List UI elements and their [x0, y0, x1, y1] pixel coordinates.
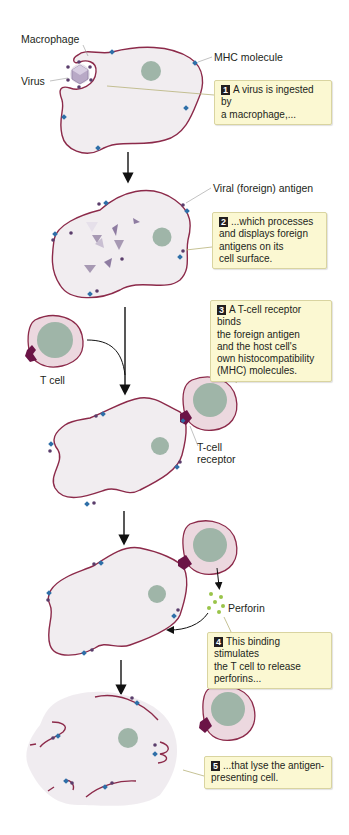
nucleus: [153, 228, 172, 247]
perforin-label: Perforin: [228, 602, 265, 614]
t-cell-receptor-label: T-cell receptor: [197, 441, 236, 465]
t-cell-receptor-label-line2: receptor: [197, 453, 236, 465]
step-text: This binding stimulates the T cell to re…: [214, 636, 301, 684]
perforin-molecules: [207, 592, 225, 614]
virus-label: Virus: [21, 75, 45, 87]
step-3-callout: 3A T-cell receptor binds the foreign ant…: [210, 300, 332, 382]
stage-2-antigen-presenting: [51, 188, 212, 298]
t-cell-label: T cell: [40, 374, 65, 386]
macrophage-label: Macrophage: [21, 33, 79, 45]
step-1-callout: 1A virus is ingested by a macrophage,...: [214, 80, 332, 125]
nucleus: [141, 61, 161, 81]
step-number-badge: 1: [221, 85, 230, 95]
nucleus: [211, 692, 245, 726]
step-5-callout: 5...that lyse the antigen- presenting ce…: [204, 756, 332, 789]
step-number-badge: 5: [211, 761, 220, 771]
nucleus: [118, 728, 138, 748]
viral-antigen-label: Viral (foreign) antigen: [213, 182, 313, 194]
nucleus: [151, 437, 169, 455]
t-cell-receptor-label-line1: T-cell: [197, 441, 236, 453]
step-text: A T-cell receptor binds the foreign anti…: [217, 304, 314, 376]
step-number-badge: 2: [219, 217, 228, 227]
stage-1-macrophage: [50, 45, 214, 153]
nucleus: [193, 528, 227, 562]
immune-response-diagram: [0, 0, 349, 835]
step-text: ...that lyse the antigen- presenting cel…: [211, 760, 324, 783]
step-number-badge: 4: [214, 637, 223, 647]
step-2-callout: 2...which processes and displays foreign…: [212, 212, 327, 269]
t-cell-free: [25, 316, 125, 375]
step-text: A virus is ingested by a macrophage,...: [221, 84, 314, 120]
step-text: ...which processes and displays foreign …: [219, 216, 313, 264]
nucleus: [148, 585, 166, 603]
nucleus: [193, 383, 227, 417]
mhc-molecule-label: MHC molecule: [214, 51, 283, 63]
step-number-badge: 3: [217, 305, 226, 315]
nucleus: [37, 322, 73, 358]
stage-3-binding: [48, 372, 240, 507]
step-4-callout: 4This binding stimulates the T cell to r…: [207, 632, 332, 689]
